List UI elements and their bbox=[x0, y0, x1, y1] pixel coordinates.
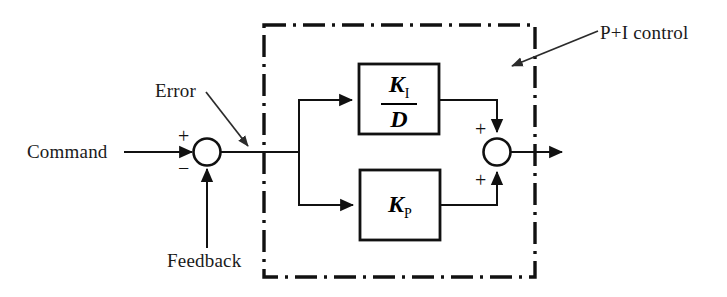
output-junction-plus-sign-bottom: + bbox=[475, 170, 486, 190]
integral-block-denominator: D bbox=[359, 107, 439, 132]
input-junction-plus-sign: + bbox=[178, 126, 189, 146]
error-label: Error bbox=[155, 80, 196, 102]
output-summing-junction-circle bbox=[484, 139, 511, 166]
integral-gain-symbol: K bbox=[389, 71, 405, 97]
proportional-block-expression: KP bbox=[360, 192, 440, 221]
input-junction-minus-sign: − bbox=[178, 158, 189, 178]
feedback-label: Feedback bbox=[167, 250, 241, 272]
diagram-canvas bbox=[0, 0, 727, 297]
command-label: Command bbox=[27, 141, 108, 163]
integral-gain-subscript: I bbox=[405, 86, 410, 101]
proportional-gain-subscript: P bbox=[404, 206, 412, 221]
proportional-gain-symbol: K bbox=[388, 191, 404, 217]
pi-control-annotation-label: P+I control bbox=[600, 22, 688, 44]
proportional-block-output-line bbox=[440, 172, 497, 205]
error-callout-arrow bbox=[206, 92, 248, 146]
integral-block-expression: KI D bbox=[359, 72, 439, 132]
control-block-diagram: Command Error Feedback P+I control + − +… bbox=[0, 0, 727, 297]
integral-block-numerator: KI bbox=[359, 72, 439, 101]
input-summing-junction-circle bbox=[194, 139, 221, 166]
integral-block-output-line bbox=[439, 100, 497, 132]
pi-control-callout-arrow bbox=[512, 31, 598, 66]
fraction-bar bbox=[381, 103, 417, 105]
output-junction-plus-sign-top: + bbox=[475, 119, 486, 139]
